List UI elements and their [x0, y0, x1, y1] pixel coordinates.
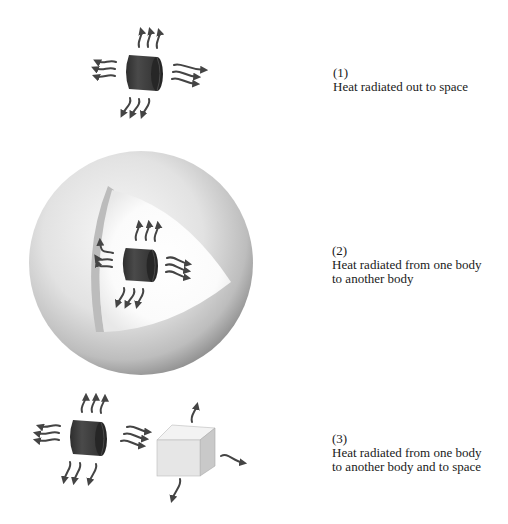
panel-3-caption: (3) Heat radiated from one body to anoth… [332, 432, 481, 474]
panel-1-number: (1) [333, 66, 468, 80]
hot-body-cylinder-icon [126, 55, 163, 91]
panel-3-illustration [36, 396, 244, 500]
panel-3-line-2: to another body and to space [332, 460, 481, 474]
panel-3-line-1: Heat radiated from one body [332, 446, 481, 460]
panel-2-line-1: Heat radiated from one body [332, 258, 481, 272]
panel-1-caption: (1) Heat radiated out to space [333, 66, 468, 94]
panel-2-line-2: to another body [332, 272, 481, 286]
second-body-cube-icon [157, 425, 215, 476]
panel-3-number: (3) [332, 432, 481, 446]
panel-2-caption: (2) Heat radiated from one body to anoth… [332, 244, 481, 286]
panel-1-line-1: Heat radiated out to space [333, 80, 468, 94]
hot-body-cylinder-icon [70, 420, 107, 456]
hot-body-cylinder-icon [123, 248, 158, 282]
panel-2-number: (2) [332, 244, 481, 258]
panel-1-illustration [94, 30, 205, 116]
panel-2-illustration [29, 151, 253, 375]
